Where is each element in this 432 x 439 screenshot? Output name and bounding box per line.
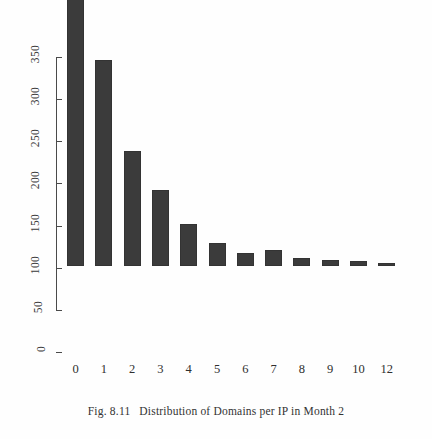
- y-axis-tick-label-text: 250: [29, 129, 41, 147]
- y-axis-tick-label-text: 350: [29, 45, 41, 63]
- x-axis-tick-label: 12: [375, 362, 399, 377]
- y-axis-tick-label: 350: [0, 48, 44, 60]
- y-axis-tick-label-text: 300: [29, 87, 41, 105]
- bar-rect: [209, 243, 226, 266]
- y-axis-tick-label: 100: [0, 259, 44, 271]
- y-axis-tick: [56, 183, 62, 184]
- bar-rect: [237, 253, 254, 266]
- y-axis-tick: [56, 268, 62, 269]
- chart-plot-area: 050100150200250300350 01234567891012: [0, 0, 432, 439]
- y-axis-tick-label-text: 200: [29, 171, 41, 189]
- bar-rect: [124, 151, 141, 266]
- bar: [95, 60, 112, 267]
- x-axis-tick-label: 1: [92, 362, 116, 377]
- y-axis-tick-label: 50: [0, 301, 44, 313]
- x-axis-tick-label: 6: [233, 362, 257, 377]
- y-axis-tick-label-text: 50: [32, 301, 44, 313]
- bar-rect: [293, 258, 310, 266]
- bar: [378, 263, 395, 266]
- bar: [67, 0, 84, 266]
- y-axis-tick-label-text: 100: [29, 255, 41, 273]
- x-axis-tick-label: 9: [318, 362, 342, 377]
- y-axis-tick: [56, 310, 62, 311]
- y-axis-tick-label: 250: [0, 132, 44, 144]
- bar-rect: [265, 250, 282, 266]
- bar: [180, 224, 197, 266]
- bar: [265, 250, 282, 266]
- y-axis-tick: [56, 226, 62, 227]
- figure-caption: Fig. 8.11Distribution of Domains per IP …: [0, 405, 432, 417]
- x-axis-tick-label: 8: [290, 362, 314, 377]
- bar: [322, 260, 339, 266]
- x-axis-tick-label: 2: [120, 362, 144, 377]
- y-axis-tick: [56, 141, 62, 142]
- bar: [152, 190, 169, 266]
- y-axis-tick: [56, 57, 62, 58]
- bar: [209, 243, 226, 266]
- bar-series: [63, 0, 423, 353]
- bar-rect: [350, 261, 367, 266]
- bar: [350, 261, 367, 266]
- bar-rect: [67, 0, 84, 266]
- figure-caption-text: Distribution of Domains per IP in Month …: [139, 405, 344, 417]
- y-axis-tick-label: 200: [0, 174, 44, 186]
- x-axis-tick-label: 7: [262, 362, 286, 377]
- y-axis-tick-label: 300: [0, 90, 44, 102]
- y-axis-tick-label: 0: [0, 343, 44, 355]
- x-axis-tick-label: 0: [64, 362, 88, 377]
- y-axis-tick: [56, 352, 62, 353]
- y-axis-tick: [56, 99, 62, 100]
- x-axis-tick-label: 3: [148, 362, 172, 377]
- y-axis-tick-label: 150: [0, 217, 44, 229]
- y-axis-tick-label-text: 0: [35, 346, 47, 352]
- bar-rect: [378, 263, 395, 266]
- y-axis-tick-label-text: 150: [29, 213, 41, 231]
- bar-rect: [95, 60, 112, 267]
- x-axis-tick-label: 5: [205, 362, 229, 377]
- x-axis-tick-label: 10: [347, 362, 371, 377]
- bar-rect: [180, 224, 197, 266]
- figure-number: Fig. 8.11: [88, 405, 131, 417]
- bar-rect: [152, 190, 169, 266]
- bar: [293, 258, 310, 266]
- bar: [237, 253, 254, 266]
- x-axis-tick-label: 4: [177, 362, 201, 377]
- figure-container: 050100150200250300350 01234567891012 Fig…: [0, 0, 432, 439]
- bar: [124, 151, 141, 266]
- bar-rect: [322, 260, 339, 266]
